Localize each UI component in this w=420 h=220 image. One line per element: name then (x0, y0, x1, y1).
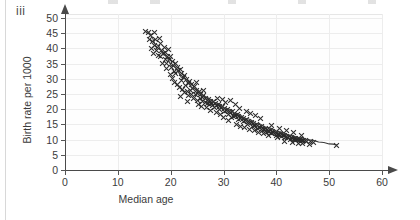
y-axis-tick (61, 155, 66, 156)
y-axis-tick (61, 48, 66, 49)
y-axis-tick (61, 33, 66, 34)
y-axis-tick (61, 94, 66, 95)
scatter-chart: 05101520253035404550 0102030405060 Media… (0, 0, 420, 220)
y-axis-tick (61, 140, 66, 141)
y-axis-tick (61, 64, 66, 65)
y-axis-tick (61, 109, 66, 110)
y-axis-title: Birth rate per 1000 (21, 35, 33, 165)
x-axis-tick (382, 170, 383, 175)
figure-root: iii 05101520253035404550 0102030405060 M… (0, 0, 420, 220)
x-axis-tick (329, 170, 330, 175)
x-axis-title-text: Median age (119, 193, 174, 205)
y-axis-tick (61, 124, 66, 125)
x-axis-tick (65, 170, 66, 175)
x-axis-tick (276, 170, 277, 175)
x-axis-tick (224, 170, 225, 175)
x-axis-tick (118, 170, 119, 175)
y-axis-tick (61, 18, 66, 19)
x-axis-title: Median age (0, 193, 420, 205)
x-axis-tick (171, 170, 172, 175)
y-axis-tick (61, 79, 66, 80)
